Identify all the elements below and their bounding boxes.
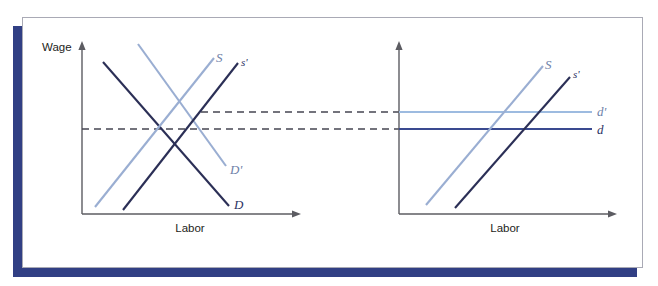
chart-canvas: Wage Labor S s' D' D Labor S s' bbox=[0, 0, 658, 286]
right-x-axis-arrow bbox=[608, 210, 617, 217]
left-supply-curve-s-prime bbox=[123, 63, 238, 210]
right-firm-panel: Labor S s' d' d bbox=[395, 41, 617, 234]
left-y-axis-label: Wage bbox=[42, 41, 72, 53]
left-supply-curve-S bbox=[95, 58, 214, 207]
right-demand-label-d: d bbox=[597, 122, 604, 137]
left-demand-label-D: D bbox=[233, 197, 244, 212]
right-x-axis-label: Labor bbox=[490, 222, 520, 234]
left-x-axis-label: Labor bbox=[175, 222, 205, 234]
right-supply-label-S: S bbox=[545, 57, 552, 72]
left-demand-label-D-prime: D' bbox=[229, 162, 242, 177]
left-supply-label-S: S bbox=[216, 50, 223, 65]
right-y-axis-arrow bbox=[395, 41, 402, 50]
right-supply-curve-s-prime bbox=[455, 77, 570, 208]
left-market-panel: Wage Labor S s' D' D bbox=[42, 41, 400, 234]
left-x-axis-arrow bbox=[292, 210, 301, 217]
left-y-axis-arrow bbox=[78, 41, 85, 50]
right-supply-curve-S bbox=[426, 66, 543, 205]
economics-figure: Wage Labor S s' D' D Labor S s' bbox=[0, 0, 658, 286]
left-supply-label-s-prime: s' bbox=[241, 56, 248, 68]
right-demand-label-d-prime: d' bbox=[597, 104, 607, 119]
left-demand-curve-D-prime bbox=[138, 44, 226, 166]
right-supply-label-s-prime: s' bbox=[573, 68, 580, 80]
